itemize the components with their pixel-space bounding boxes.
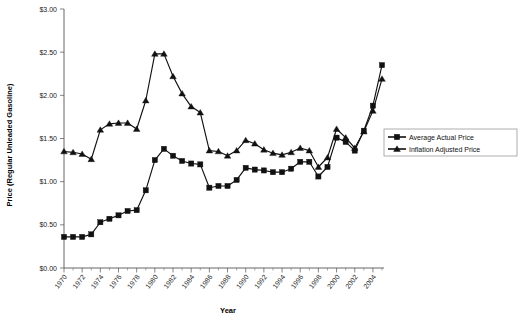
- data-point-triangle: [324, 154, 331, 160]
- y-axis-tick-labels: $0.00$0.50$1.00$1.50$2.00$2.50$3.00: [39, 6, 57, 272]
- data-point-square: [279, 170, 284, 175]
- y-tick-label: $0.50: [39, 221, 57, 228]
- series-actual-price: [61, 63, 384, 240]
- y-tick-label: $0.00: [39, 265, 57, 272]
- data-point-square: [234, 177, 239, 182]
- data-point-triangle: [242, 137, 249, 143]
- x-tick-label: 2002: [344, 273, 359, 290]
- data-point-triangle: [224, 153, 231, 159]
- data-point-square: [152, 157, 157, 162]
- x-tick-label: 1990: [235, 273, 250, 290]
- y-tick-label: $2.50: [39, 49, 57, 56]
- x-tick-label: 2000: [326, 273, 341, 290]
- x-tick-label: 1988: [217, 273, 232, 290]
- series-line: [64, 65, 382, 237]
- gasoline-price-chart: $0.00$0.50$1.00$1.50$2.00$2.50$3.00 1970…: [0, 0, 524, 323]
- data-point-square: [198, 162, 203, 167]
- x-tick-label: 1992: [253, 273, 268, 290]
- series-line: [64, 54, 382, 167]
- data-point-triangle: [333, 126, 340, 132]
- x-tick-label: 1996: [289, 273, 304, 290]
- data-point-square: [170, 153, 175, 158]
- y-tick-label: $2.00: [39, 92, 57, 99]
- x-axis-tick-labels: 1970197219741976197819801982198419861988…: [53, 273, 377, 290]
- x-tick-label: 1986: [199, 273, 214, 290]
- x-axis-title: Year: [220, 306, 236, 315]
- data-point-square: [325, 164, 330, 169]
- data-point-triangle: [97, 127, 104, 133]
- x-tick-label: 1984: [180, 273, 195, 290]
- series-inflation-adjusted: [61, 51, 386, 170]
- data-point-square: [261, 168, 266, 173]
- data-point-square: [125, 208, 130, 213]
- x-tick-label: 1994: [271, 273, 286, 290]
- data-point-square: [307, 159, 312, 164]
- y-tick-label: $1.00: [39, 178, 57, 185]
- x-tick-label: 1980: [144, 273, 159, 290]
- data-point-square: [80, 234, 85, 239]
- data-point-square: [379, 63, 384, 68]
- data-point-square: [134, 208, 139, 213]
- data-point-square: [143, 188, 148, 193]
- x-tick-label: 1982: [162, 273, 177, 290]
- data-point-triangle: [297, 145, 304, 151]
- data-point-square: [270, 170, 275, 175]
- data-point-square: [225, 183, 230, 188]
- x-tick-label: 1998: [308, 273, 323, 290]
- data-point-square: [243, 165, 248, 170]
- x-tick-label: 1972: [71, 273, 86, 290]
- x-tick-label: 1976: [108, 273, 123, 290]
- legend-marker-square: [394, 134, 399, 139]
- data-point-triangle: [188, 103, 195, 109]
- axis-tick-marks: [60, 9, 382, 273]
- data-point-square: [107, 216, 112, 221]
- data-point-square: [252, 167, 257, 172]
- data-point-square: [289, 166, 294, 171]
- data-point-square: [161, 146, 166, 151]
- data-point-square: [116, 213, 121, 218]
- data-point-triangle: [142, 97, 149, 103]
- chart-canvas: $0.00$0.50$1.00$1.50$2.00$2.50$3.00 1970…: [0, 0, 524, 323]
- data-series-layer: [61, 51, 386, 240]
- y-tick-label: $1.50: [39, 135, 57, 142]
- legend-item-label: Inflation Adjusted Price: [409, 146, 480, 154]
- data-point-square: [316, 174, 321, 179]
- data-point-square: [189, 161, 194, 166]
- x-tick-label: 2004: [362, 273, 377, 290]
- data-point-square: [298, 159, 303, 164]
- y-tick-label: $3.00: [39, 6, 57, 13]
- data-point-square: [216, 183, 221, 188]
- x-tick-label: 1970: [53, 273, 68, 290]
- data-point-triangle: [170, 73, 177, 79]
- x-tick-label: 1978: [126, 273, 141, 290]
- data-point-triangle: [179, 91, 186, 97]
- chart-legend: Average Actual PriceInflation Adjusted P…: [384, 129, 517, 156]
- legend-item-label: Average Actual Price: [409, 134, 474, 142]
- data-point-square: [89, 232, 94, 237]
- data-point-triangle: [261, 147, 268, 153]
- data-point-square: [70, 234, 75, 239]
- data-point-triangle: [197, 110, 204, 116]
- data-point-square: [180, 158, 185, 163]
- data-point-square: [61, 234, 66, 239]
- y-axis-title: Price (Regular Unleaded Gasoline): [5, 83, 14, 206]
- data-point-triangle: [288, 149, 295, 155]
- data-point-triangle: [88, 156, 95, 162]
- data-point-square: [207, 185, 212, 190]
- data-point-square: [98, 220, 103, 225]
- data-point-triangle: [133, 126, 140, 132]
- x-tick-label: 1974: [90, 273, 105, 290]
